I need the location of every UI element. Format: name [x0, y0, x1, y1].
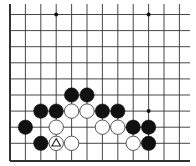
black-stone [34, 104, 48, 118]
black-stone [111, 104, 125, 118]
go-board [0, 0, 196, 166]
white-stone [49, 120, 63, 134]
white-stone [126, 136, 140, 150]
white-stone [95, 120, 109, 134]
black-stone [80, 88, 94, 102]
black-stone [34, 136, 48, 150]
white-stone [64, 136, 78, 150]
star-point-icon [147, 13, 151, 17]
white-stone [111, 120, 125, 134]
black-stone [141, 120, 155, 134]
black-stone [126, 120, 140, 134]
star-point-icon [147, 109, 151, 113]
white-stone [64, 104, 78, 118]
black-stone [95, 104, 109, 118]
white-stone [80, 104, 94, 118]
black-stone [64, 88, 78, 102]
black-stone [141, 136, 155, 150]
black-stone [18, 120, 32, 134]
star-point-icon [54, 13, 58, 17]
black-stone [49, 104, 63, 118]
